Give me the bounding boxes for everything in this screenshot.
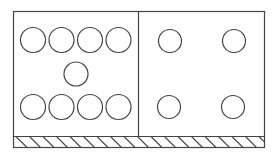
hatch-line — [232, 137, 243, 148]
hatch-line — [192, 137, 203, 148]
hatch-line — [205, 137, 216, 148]
hatch-line — [97, 137, 108, 148]
circle — [159, 30, 182, 53]
circle — [49, 28, 74, 53]
circle — [78, 28, 103, 53]
hatch-line — [138, 137, 149, 148]
hatch-line — [57, 137, 68, 148]
circle — [106, 28, 131, 53]
hatch-line — [84, 137, 95, 148]
hatch-line — [70, 137, 81, 148]
right-panel — [158, 30, 246, 119]
circle — [21, 95, 46, 120]
hatch-line — [165, 137, 176, 148]
hatch-line — [151, 137, 162, 148]
circle — [21, 28, 46, 53]
hatch-line — [124, 137, 135, 148]
circle — [49, 95, 74, 120]
hatch-lines — [3, 137, 273, 148]
hatch-line — [219, 137, 230, 148]
circle — [64, 62, 88, 86]
hatch-line — [30, 137, 41, 148]
hatch-line — [178, 137, 189, 148]
hatch-line — [246, 137, 257, 148]
diagram-canvas — [0, 0, 272, 156]
hatch-line — [43, 137, 54, 148]
hatch-line — [3, 137, 14, 148]
circle — [223, 30, 246, 53]
left-panel — [21, 28, 132, 120]
circle — [106, 95, 131, 120]
circle — [158, 96, 181, 119]
circle — [222, 96, 245, 119]
hatch-line — [111, 137, 122, 148]
hatched-ground-strip — [3, 137, 273, 148]
circle — [78, 95, 103, 120]
hatch-line — [16, 137, 27, 148]
